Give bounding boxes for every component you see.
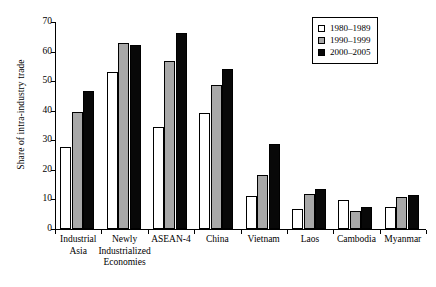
bar: [72, 112, 83, 229]
legend-item: 1990–1999: [318, 35, 371, 46]
bar: [292, 209, 303, 229]
y-tick-label: 60: [43, 45, 53, 58]
bar: [130, 45, 141, 229]
y-tick-label: 40: [43, 104, 53, 117]
bar: [83, 91, 94, 229]
y-tick-label: 20: [43, 163, 53, 176]
bar: [60, 147, 71, 229]
legend-swatch-icon: [318, 25, 325, 32]
bar: [338, 200, 349, 229]
legend-item: 2000–2005: [318, 47, 371, 58]
bar-group: [153, 22, 187, 229]
bar-group: [246, 22, 280, 229]
bar: [222, 69, 233, 229]
bar: [118, 43, 129, 229]
bar: [269, 144, 280, 229]
x-tick-label: Myanmar: [369, 234, 436, 246]
bar: [385, 207, 396, 229]
bar: [315, 189, 326, 230]
y-tick-label: 50: [43, 74, 53, 87]
bar-chart: Share of intra-industry trade 0102030405…: [0, 0, 436, 287]
bar: [246, 196, 257, 229]
bar: [350, 211, 361, 229]
x-tick-mark: [55, 230, 56, 234]
y-tick-label: 10: [43, 192, 53, 205]
chart-legend: 1980–1989 1990–1999 2000–2005: [312, 17, 378, 64]
bar: [361, 207, 372, 229]
bar: [408, 195, 419, 229]
legend-label: 1990–1999: [330, 35, 371, 46]
bar: [199, 113, 210, 229]
bar: [107, 72, 118, 229]
bar: [396, 197, 407, 229]
bar-group: [107, 22, 141, 229]
legend-swatch-icon: [318, 37, 325, 44]
y-tick-label: 30: [43, 133, 53, 146]
legend-item: 1980–1989: [318, 23, 371, 34]
legend-label: 2000–2005: [330, 47, 371, 58]
bar: [257, 175, 268, 229]
y-tick-label: 70: [43, 15, 53, 28]
bar-group: [199, 22, 233, 229]
bar: [164, 61, 175, 229]
y-axis-title: Share of intra-industry trade: [14, 0, 28, 229]
legend-label: 1980–1989: [330, 23, 371, 34]
bar: [153, 127, 164, 229]
bar-group: [60, 22, 94, 229]
bar: [211, 85, 222, 229]
bar: [304, 194, 315, 229]
legend-swatch-icon: [318, 49, 325, 56]
bar: [176, 33, 187, 229]
bar-group: [385, 22, 419, 229]
